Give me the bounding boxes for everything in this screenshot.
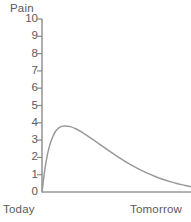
x-axis-label-today: Today — [3, 203, 35, 215]
plot-area — [0, 0, 191, 222]
pain-over-time-chart: Pain 109876543210 Today Tomorrow — [0, 0, 191, 222]
pain-curve-line — [42, 126, 191, 192]
x-axis-label-tomorrow: Tomorrow — [130, 203, 182, 215]
y-axis-tick-marks — [37, 19, 42, 175]
